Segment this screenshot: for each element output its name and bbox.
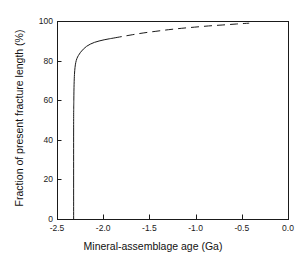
y-axis-tick-label: 60 xyxy=(27,95,53,105)
y-axis-tick-label: 0 xyxy=(27,214,53,224)
y-axis-title: Fraction of present fracture length (%) xyxy=(13,13,25,223)
y-axis-tick-label: 40 xyxy=(27,135,53,145)
x-axis-tick-label: -2.5 xyxy=(50,223,65,233)
y-axis-tick-label: 100 xyxy=(27,16,53,26)
figure-panel: Mineral-assemblage age (Ga) Fraction of … xyxy=(0,0,306,262)
x-axis-title: Mineral-assemblage age (Ga) xyxy=(0,240,306,252)
x-axis-tick-label: -2.0 xyxy=(96,223,111,233)
x-axis-tick-label: 0.0 xyxy=(282,223,294,233)
plot-frame xyxy=(58,22,289,220)
x-axis-tick-label: -1.5 xyxy=(142,223,157,233)
y-axis-tick-label: 20 xyxy=(27,174,53,184)
x-axis-tick-label: -1.0 xyxy=(188,223,203,233)
x-axis-tick-label: -0.5 xyxy=(234,223,249,233)
y-axis-tick-label: 80 xyxy=(27,56,53,66)
